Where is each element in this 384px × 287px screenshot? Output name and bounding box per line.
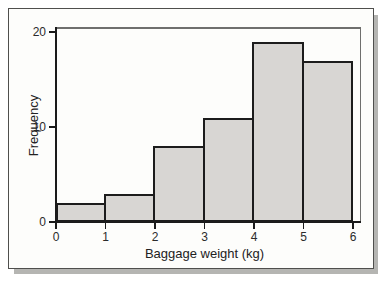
x-tick-mark (55, 223, 57, 229)
x-tick-mark (105, 223, 107, 229)
y-axis-title: Frequency (26, 76, 41, 176)
y-tick-mark (49, 126, 55, 128)
x-tick-label: 4 (244, 231, 264, 243)
histogram-bar (252, 42, 304, 223)
x-tick-label: 5 (294, 231, 314, 243)
x-tick-mark (352, 223, 354, 229)
histogram-plot: 01020 0123456 Baggage weight (kg) Freque… (9, 9, 373, 268)
histogram-bar (56, 203, 106, 222)
x-tick-label: 0 (46, 231, 66, 243)
histogram-bar (203, 118, 255, 223)
x-tick-label: 6 (343, 231, 363, 243)
y-tick-mark (49, 221, 55, 223)
x-tick-label: 3 (195, 231, 215, 243)
x-tick-label: 2 (145, 231, 165, 243)
histogram-bar (302, 61, 354, 223)
x-tick-label: 1 (96, 231, 116, 243)
x-axis-title: Baggage weight (kg) (56, 246, 353, 261)
x-tick-mark (303, 223, 305, 229)
x-tick-mark (154, 223, 156, 229)
y-axis-line (55, 27, 57, 228)
x-tick-mark (204, 223, 206, 229)
y-tick-mark (49, 31, 55, 33)
y-tick-label: 0 (20, 216, 46, 228)
page: 01020 0123456 Baggage weight (kg) Freque… (0, 0, 384, 287)
chart-figure: 01020 0123456 Baggage weight (kg) Freque… (8, 8, 374, 269)
plot-frame-right (360, 27, 362, 222)
histogram-bar (104, 194, 156, 223)
plot-frame-top (55, 27, 361, 29)
histogram-bar (153, 146, 205, 222)
x-tick-mark (253, 223, 255, 229)
y-tick-label: 20 (20, 26, 46, 38)
